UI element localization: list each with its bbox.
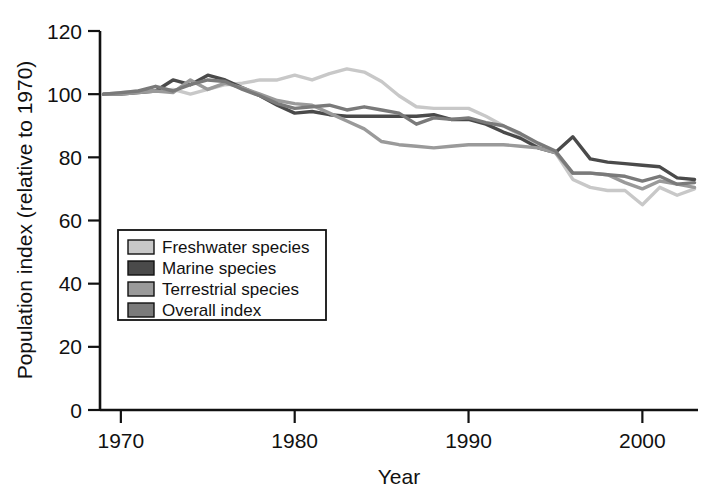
y-tick-label: 0 [70,399,82,422]
y-axis-title: Population index (relative to 1970) [13,61,36,380]
legend-label: Marine species [162,259,276,278]
chart-figure: 020406080100120 1970198019902000 Populat… [0,0,701,493]
y-tick-label: 100 [47,83,82,106]
line-chart: 020406080100120 1970198019902000 Populat… [0,0,701,493]
x-axis-title: Year [378,465,420,488]
y-tick-label: 20 [59,335,82,358]
x-tick-label: 2000 [619,429,666,452]
legend-swatch [128,240,154,254]
x-tick-label: 1970 [98,429,145,452]
legend-swatch [128,282,154,296]
y-tick-label: 120 [47,20,82,43]
y-tick-label: 60 [59,209,82,232]
x-tick-label: 1980 [271,429,318,452]
y-tick-label: 40 [59,272,82,295]
y-tick-label: 80 [59,146,82,169]
legend-swatch [128,261,154,275]
legend-swatch [128,303,154,317]
x-tick-label: 1990 [445,429,492,452]
legend-label: Overall index [162,301,262,320]
legend-label: Terrestrial species [162,280,299,299]
chart-legend: Freshwater speciesMarine speciesTerrestr… [118,230,326,320]
legend-label: Freshwater species [162,238,309,257]
chart-background [0,0,701,493]
